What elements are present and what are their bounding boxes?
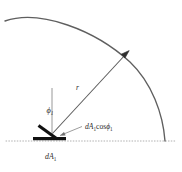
projected-area-cos: cos: [96, 122, 106, 131]
surface-area-subscript: 1: [54, 156, 57, 162]
radius-label-r: r: [76, 83, 79, 92]
figure-container: ϕ1 r dA1cosϕ1 dA1: [0, 0, 182, 172]
projected-area-label: dA1cosϕ1: [85, 122, 113, 132]
radiometry-diagram: ϕ1 r dA1cosϕ1 dA1: [0, 0, 182, 172]
projected-area-angle-subscript: 1: [110, 126, 113, 132]
angle-label-subscript: 1: [51, 110, 54, 116]
canvas-background: [0, 0, 182, 172]
